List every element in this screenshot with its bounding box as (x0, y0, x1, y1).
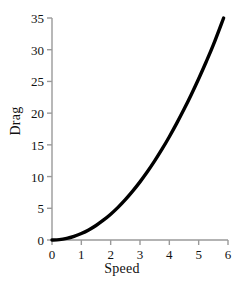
drag-curve-path (52, 18, 224, 240)
y-axis-tick-label: 10 (31, 170, 44, 183)
drag-vs-speed-chart: 05101520253035 0123456 Drag Speed (0, 0, 244, 284)
y-axis-tick-label: 15 (31, 138, 44, 151)
x-axis-tick-label: 6 (225, 248, 232, 261)
x-axis-ticks (52, 240, 228, 245)
y-axis-title: Drag (8, 96, 24, 146)
x-axis-tick-label: 4 (166, 248, 173, 261)
data-series (52, 18, 224, 240)
axes (52, 18, 228, 240)
y-axis-tick-label: 20 (31, 107, 44, 120)
x-axis-tick-label: 1 (78, 248, 85, 261)
x-axis-tick-label: 0 (49, 248, 56, 261)
y-axis-tick-label: 35 (31, 12, 44, 25)
y-axis-tick-label: 0 (38, 234, 45, 247)
x-axis-tick-label: 2 (107, 248, 114, 261)
y-axis-tick-label: 30 (31, 43, 44, 56)
y-axis-tick-label: 25 (31, 75, 44, 88)
x-axis-title: Speed (0, 261, 244, 277)
x-axis-tick-label: 3 (137, 248, 144, 261)
y-axis-ticks (47, 18, 52, 240)
y-axis-tick-label: 5 (38, 202, 45, 215)
x-axis-tick-label: 5 (195, 248, 202, 261)
